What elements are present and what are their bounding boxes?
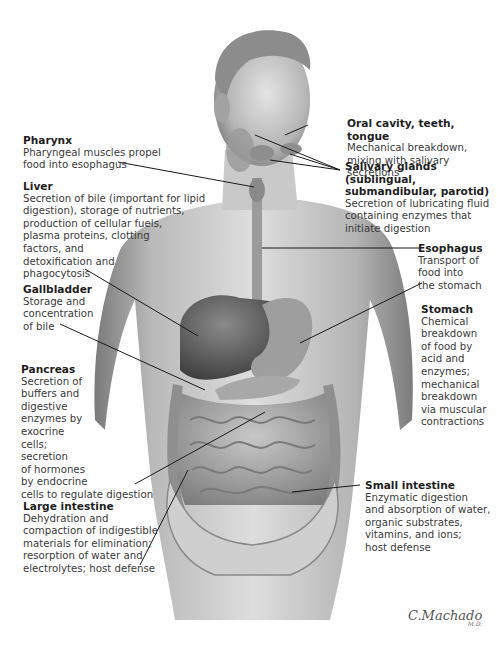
label-title: Pharynx [23, 134, 161, 147]
label-small-intestine: Small intestine Enzymatic digestion and … [365, 479, 490, 555]
label-title: Stomach [421, 303, 486, 316]
label-title: Oral cavity, teeth, tongue [347, 117, 497, 142]
label-desc: Secretion of buffers and digestive enzym… [21, 376, 153, 502]
label-liver: Liver Secretion of bile (important for l… [23, 180, 205, 281]
label-title: Salivary glands (sublingual, submandibul… [345, 160, 497, 198]
label-title: Esophagus [418, 242, 483, 255]
label-title: Large intestine [23, 500, 158, 513]
artist-signature: C.Machado M.D. [408, 608, 482, 627]
label-stomach: Stomach Chemical breakdown of food by ac… [421, 303, 486, 429]
label-desc: Transport of food into the stomach [418, 255, 483, 293]
label-esophagus: Esophagus Transport of food into the sto… [418, 242, 483, 292]
label-pharynx: Pharynx Pharyngeal muscles propel food i… [23, 134, 161, 172]
label-large-intestine: Large intestine Dehydration and compacti… [23, 500, 158, 576]
label-desc: Storage and concentration of bile [23, 296, 94, 334]
label-desc: Dehydration and compaction of indigestib… [23, 513, 158, 576]
label-desc: Pharyngeal muscles propel food into esop… [23, 147, 161, 172]
label-desc: Enzymatic digestion and absorption of wa… [365, 492, 490, 555]
label-desc: Secretion of lubricating fluid containin… [345, 198, 497, 236]
label-title: Liver [23, 180, 205, 193]
intestines [167, 385, 338, 575]
label-pancreas: Pancreas Secretion of buffers and digest… [21, 363, 153, 502]
label-salivary-glands: Salivary glands (sublingual, submandibul… [345, 160, 497, 236]
label-title: Gallbladder [23, 283, 94, 296]
label-gallbladder: Gallbladder Storage and concentration of… [23, 283, 94, 333]
head [214, 30, 310, 172]
label-desc: Secretion of bile (important for lipid d… [23, 193, 205, 281]
label-title: Pancreas [21, 363, 153, 376]
label-desc: Chemical breakdown of food by acid and e… [421, 316, 486, 429]
label-title: Small intestine [365, 479, 490, 492]
